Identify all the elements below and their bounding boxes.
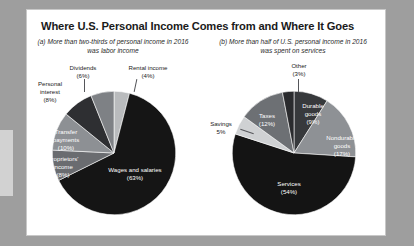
figure-title: Where U.S. Personal Income Comes from an… bbox=[41, 20, 354, 32]
panel-a-caption: (a) More than two-thirds of personal inc… bbox=[33, 38, 193, 56]
leader-line-other bbox=[298, 79, 299, 92]
pie-chart-b bbox=[231, 90, 357, 216]
pie-a-svg bbox=[51, 90, 177, 216]
page-left-accent-band bbox=[0, 130, 13, 196]
panel-b-caption: (b) More than half of U.S. personal inco… bbox=[213, 38, 373, 56]
label-dividends: Dividends (6%) bbox=[61, 64, 105, 80]
pie-b-svg bbox=[231, 90, 357, 216]
pie-chart-a bbox=[51, 90, 177, 216]
panel-a-personal-income-sources: Dividends (6%) Rental income (4%) Person… bbox=[29, 58, 207, 234]
leader-line-dividends bbox=[84, 79, 85, 92]
figure-card: Where U.S. Personal Income Comes from an… bbox=[26, 9, 386, 236]
panel-b-personal-income-uses: Other (3%) Durable goods (9%) Nondurable… bbox=[207, 58, 385, 234]
label-other: Other (3%) bbox=[281, 62, 317, 78]
label-rental-income: Rental income (4%) bbox=[121, 64, 175, 80]
